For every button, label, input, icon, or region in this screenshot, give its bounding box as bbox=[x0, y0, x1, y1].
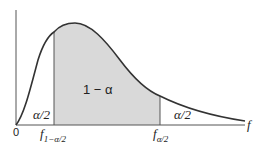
origin-label: 0 bbox=[13, 126, 19, 138]
shaded-region bbox=[54, 23, 160, 125]
f-distribution-plot bbox=[0, 0, 269, 147]
x-axis-label: f bbox=[247, 117, 251, 133]
center-region-label: 1 − α bbox=[83, 82, 113, 97]
lower-critical-value-label: f1−α/2 bbox=[40, 126, 66, 142]
upper-critical-value-label: fα/2 bbox=[153, 126, 168, 142]
lower-critical-subscript: 1−α/2 bbox=[44, 134, 66, 144]
upper-critical-subscript: α/2 bbox=[157, 134, 169, 144]
left-tail-label: α/2 bbox=[33, 107, 50, 123]
right-tail-label: α/2 bbox=[174, 107, 191, 123]
